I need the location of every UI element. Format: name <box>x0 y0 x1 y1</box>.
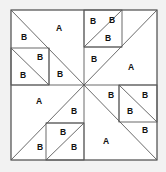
piece-label-bl-b2: B <box>60 127 66 137</box>
piece-label-br-b2: B <box>142 90 148 100</box>
piece-label-tr-a: A <box>128 62 134 72</box>
piece-label-br-a: A <box>103 136 109 146</box>
piece-label-tl-a: A <box>56 23 62 33</box>
piece-label-br-b1: B <box>108 90 114 100</box>
piece-label-tr-b3: B <box>105 33 111 43</box>
piece-label-tl-b3: B <box>20 70 26 80</box>
piece-label-tr-b2: B <box>109 15 115 25</box>
piece-label-tr-b1: B <box>90 16 96 26</box>
quilt-block-diagram: A B B B B B B B B A A B B B B B B B B A <box>0 0 166 172</box>
piece-label-tl-b4: B <box>57 69 63 79</box>
piece-label-bl-b4: B <box>71 142 77 152</box>
piece-label-bl-b1: B <box>71 106 77 116</box>
piece-label-bl-b3: B <box>37 142 43 152</box>
piece-label-tl-b1: B <box>21 32 27 42</box>
piece-label-br-b4: B <box>142 125 148 135</box>
quilt-block-figure: A B B B B B B B B A A B B B B B B B B A <box>0 0 166 172</box>
piece-label-bl-a: A <box>36 96 42 106</box>
piece-label-tl-b2: B <box>37 52 43 62</box>
piece-label-br-b3: B <box>127 106 133 116</box>
piece-label-tr-b4: B <box>91 54 97 64</box>
